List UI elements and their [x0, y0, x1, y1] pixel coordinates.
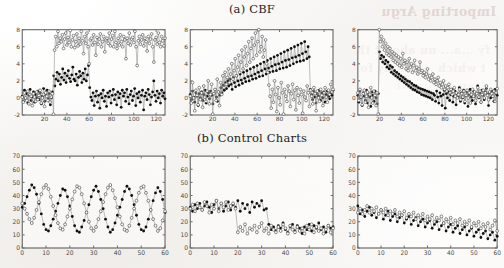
- svg-text:40: 40: [398, 116, 406, 122]
- svg-text:40: 40: [231, 117, 239, 123]
- svg-text:20: 20: [401, 249, 409, 256]
- svg-text:60: 60: [419, 116, 427, 122]
- svg-text:10: 10: [181, 231, 189, 238]
- svg-text:2: 2: [352, 78, 356, 84]
- svg-text:40: 40: [282, 249, 290, 256]
- chart-control-1: 0102030405060700102030405060: [4, 150, 170, 262]
- svg-text:8: 8: [16, 27, 20, 33]
- svg-text:20: 20: [66, 249, 74, 256]
- svg-text:6: 6: [16, 44, 20, 50]
- svg-text:60: 60: [329, 249, 337, 256]
- svg-text:50: 50: [348, 178, 356, 185]
- figure-caption-cbf: (a) CBF: [0, 2, 504, 16]
- svg-text:10: 10: [348, 231, 356, 238]
- scanned-page: Importing Argu fy ...a... nu abo...t th …: [0, 0, 504, 268]
- svg-text:2: 2: [184, 78, 188, 84]
- svg-text:100: 100: [296, 117, 308, 123]
- svg-text:50: 50: [137, 249, 145, 256]
- chart-cbf-1: -20246820406080100120: [4, 24, 170, 128]
- svg-text:40: 40: [181, 192, 189, 199]
- svg-text:20: 20: [234, 249, 242, 256]
- svg-text:-2: -2: [350, 112, 356, 118]
- svg-text:6: 6: [184, 44, 188, 50]
- svg-text:70: 70: [181, 152, 189, 159]
- svg-text:0: 0: [356, 249, 360, 256]
- svg-text:40: 40: [348, 192, 356, 199]
- svg-text:50: 50: [13, 178, 21, 185]
- svg-text:30: 30: [181, 205, 189, 212]
- svg-text:60: 60: [253, 117, 261, 123]
- svg-text:70: 70: [13, 152, 21, 159]
- svg-text:0: 0: [20, 249, 24, 256]
- svg-text:0: 0: [352, 95, 356, 101]
- svg-text:60: 60: [13, 165, 21, 172]
- svg-text:40: 40: [114, 249, 122, 256]
- svg-text:80: 80: [441, 116, 449, 122]
- svg-text:120: 120: [318, 117, 330, 123]
- svg-text:20: 20: [181, 218, 189, 225]
- svg-text:60: 60: [493, 249, 501, 256]
- svg-text:0: 0: [184, 95, 188, 101]
- svg-text:20: 20: [209, 117, 217, 123]
- chart-control-2: 0102030405060700102030405060: [172, 150, 338, 262]
- svg-text:50: 50: [470, 249, 478, 256]
- svg-text:10: 10: [210, 249, 218, 256]
- svg-text:100: 100: [461, 116, 472, 122]
- chart-control-3: 0102030405060700102030405060: [340, 150, 502, 262]
- svg-text:30: 30: [90, 249, 98, 256]
- figure-caption-control-charts: (b) Control Charts: [0, 131, 504, 145]
- svg-text:120: 120: [150, 117, 162, 123]
- chart-cbf-3: -20246820406080100120: [340, 24, 502, 128]
- svg-text:10: 10: [377, 249, 385, 256]
- svg-text:60: 60: [85, 117, 93, 123]
- svg-text:4: 4: [352, 61, 356, 67]
- svg-text:8: 8: [352, 27, 356, 33]
- svg-text:-2: -2: [14, 112, 20, 118]
- svg-text:100: 100: [128, 117, 140, 123]
- svg-text:40: 40: [13, 192, 21, 199]
- svg-text:30: 30: [258, 249, 266, 256]
- svg-text:20: 20: [376, 116, 384, 122]
- svg-text:70: 70: [348, 152, 356, 159]
- svg-text:30: 30: [13, 205, 21, 212]
- svg-text:10: 10: [13, 231, 21, 238]
- svg-text:60: 60: [181, 165, 189, 172]
- svg-text:10: 10: [42, 249, 50, 256]
- svg-text:40: 40: [447, 249, 455, 256]
- svg-text:20: 20: [348, 218, 356, 225]
- svg-text:0: 0: [188, 249, 192, 256]
- svg-text:20: 20: [13, 218, 21, 225]
- svg-text:6: 6: [352, 44, 356, 50]
- svg-text:80: 80: [276, 117, 284, 123]
- svg-text:60: 60: [348, 165, 356, 172]
- svg-text:-2: -2: [182, 112, 188, 118]
- svg-text:20: 20: [41, 117, 49, 123]
- svg-text:50: 50: [305, 249, 313, 256]
- chart-cbf-2: -20246820406080100120: [172, 24, 338, 128]
- svg-text:8: 8: [184, 27, 188, 33]
- svg-text:120: 120: [483, 116, 494, 122]
- svg-text:4: 4: [184, 61, 188, 67]
- svg-text:4: 4: [16, 61, 20, 67]
- svg-text:40: 40: [63, 117, 71, 123]
- svg-text:30: 30: [348, 205, 356, 212]
- svg-text:2: 2: [16, 78, 20, 84]
- svg-text:0: 0: [16, 95, 20, 101]
- svg-text:30: 30: [424, 249, 432, 256]
- svg-text:80: 80: [108, 117, 116, 123]
- svg-text:60: 60: [161, 249, 169, 256]
- svg-text:50: 50: [181, 178, 189, 185]
